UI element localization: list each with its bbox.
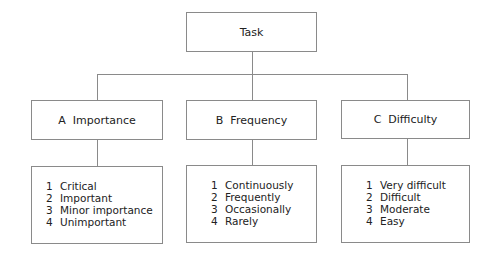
list-item: 3Moderate bbox=[366, 203, 446, 215]
list-item: 3Occasionally bbox=[211, 203, 293, 215]
list-item: 4Easy bbox=[366, 215, 446, 227]
list-item: 4Rarely bbox=[211, 215, 293, 227]
connector-c-down bbox=[407, 74, 408, 101]
importance-label: A Importance bbox=[58, 114, 136, 127]
list-item: 3Minor importance bbox=[46, 204, 153, 216]
connector-b-list bbox=[252, 139, 253, 166]
frequency-node: B Frequency bbox=[186, 100, 317, 140]
list-item: 4Unimportant bbox=[46, 216, 153, 228]
frequency-scale-list: 1Continuously 2Frequently 3Occasionally … bbox=[211, 179, 293, 227]
connector-b-down bbox=[252, 74, 253, 101]
list-item: 1Very difficult bbox=[366, 179, 446, 191]
task-label: Task bbox=[240, 26, 264, 39]
difficulty-node: C Difficulty bbox=[341, 100, 470, 139]
list-item: 1Continuously bbox=[211, 179, 293, 191]
list-item: 2Important bbox=[46, 192, 153, 204]
list-item: 1Critical bbox=[46, 180, 153, 192]
frequency-label: B Frequency bbox=[216, 114, 287, 127]
connector-a-down bbox=[97, 74, 98, 101]
connector-c-list bbox=[407, 138, 408, 166]
list-item: 2Frequently bbox=[211, 191, 293, 203]
list-item: 2Difficult bbox=[366, 191, 446, 203]
connector-a-list bbox=[97, 139, 98, 166]
task-node: Task bbox=[186, 12, 317, 52]
connector-root-down bbox=[252, 51, 253, 74]
difficulty-label: C Difficulty bbox=[374, 113, 438, 126]
importance-scale-list: 1Critical 2Important 3Minor importance 4… bbox=[46, 180, 153, 228]
importance-node: A Importance bbox=[31, 100, 163, 140]
difficulty-scale-list: 1Very difficult 2Difficult 3Moderate 4Ea… bbox=[366, 179, 446, 227]
